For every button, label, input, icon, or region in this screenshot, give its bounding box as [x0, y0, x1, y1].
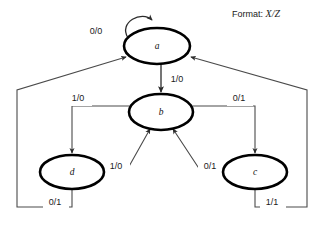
state-machine-svg: 0/0 1/0 1/0 0/1 1/0 0/1 0/1 1/1 a b: [0, 0, 324, 226]
edge-label-a-to-a-self-loop: 0/0: [90, 26, 103, 36]
state-node-a[interactable]: a: [124, 28, 190, 64]
edge-b-to-c: [193, 106, 255, 153]
edge-label-d-to-a: 0/1: [49, 197, 62, 207]
edge-label-b-to-d: 1/0: [72, 93, 85, 103]
edge-label-b-to-c: 0/1: [233, 93, 246, 103]
format-legend-prefix: Format:: [232, 9, 263, 19]
state-node-b[interactable]: b: [129, 94, 193, 130]
state-diagram-canvas: 0/0 1/0 1/0 0/1 1/0 0/1 0/1 1/1 a b: [0, 0, 324, 226]
edge-label-c-to-a: 1/1: [266, 197, 279, 207]
state-label-d: d: [70, 167, 75, 177]
edge-label-c-to-b: 0/1: [204, 161, 217, 171]
edge-label-d-to-b: 1/0: [110, 161, 123, 171]
edge-label-a-to-b: 1/0: [171, 74, 184, 84]
state-node-c[interactable]: c: [223, 155, 287, 189]
edge-b-to-d: [72, 106, 129, 153]
state-node-d[interactable]: d: [40, 155, 104, 189]
format-legend-expression: X/Z: [266, 8, 280, 19]
state-label-a: a: [155, 41, 160, 51]
format-legend: Format: X/Z: [232, 8, 280, 19]
state-label-b: b: [159, 107, 164, 117]
